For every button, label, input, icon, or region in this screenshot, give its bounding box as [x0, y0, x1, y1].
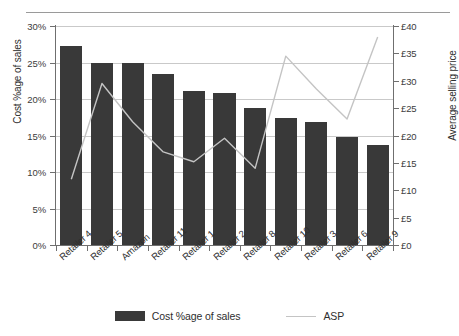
- combo-chart: 0%5%10%15%20%25%30%£0£5£10£15£20£25£30£3…: [0, 0, 459, 336]
- x-axis-tick: [393, 246, 394, 251]
- x-axis-label: Retailer 6: [333, 228, 369, 262]
- legend-item-cost: Cost %age of sales: [115, 310, 241, 322]
- x-axis-tick: [56, 246, 57, 251]
- x-axis-labels: Retailer 4Retailer 5AmazonRetailer 11Ret…: [0, 0, 459, 336]
- x-axis-label: Retailer 9: [364, 228, 400, 262]
- chart-legend: Cost %age of sales ASP: [0, 306, 459, 326]
- x-axis-tick: [332, 246, 333, 251]
- x-axis-label: Retailer 5: [88, 228, 124, 262]
- x-axis-label: Retailer 8: [241, 228, 277, 262]
- x-axis-label: Retailer 2: [211, 228, 247, 262]
- legend-item-asp: ASP: [286, 310, 344, 322]
- x-axis-tick: [209, 246, 210, 251]
- x-axis-tick: [87, 246, 88, 251]
- x-axis-tick: [301, 246, 302, 251]
- x-axis-label: Retailer 4: [57, 228, 93, 262]
- right-axis-title: Average selling price: [447, 16, 458, 176]
- x-axis-tick: [240, 246, 241, 251]
- x-axis-tick: [179, 246, 180, 251]
- legend-label-cost: Cost %age of sales: [152, 310, 241, 322]
- x-axis-tick: [270, 246, 271, 251]
- x-axis-tick: [148, 246, 149, 251]
- legend-label-asp: ASP: [323, 310, 344, 322]
- left-axis-title: Cost %age of sales: [12, 2, 23, 162]
- x-axis-tick: [362, 246, 363, 251]
- legend-line-swatch-icon: [286, 311, 316, 321]
- legend-bar-swatch-icon: [115, 311, 145, 321]
- x-axis-tick: [117, 246, 118, 251]
